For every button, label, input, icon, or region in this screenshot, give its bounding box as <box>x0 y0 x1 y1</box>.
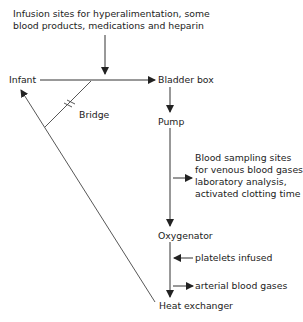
sampling-note: Blood sampling sites for venous blood ga… <box>195 152 303 200</box>
infusion-note-line-2: blood products, medications and heparin <box>13 20 210 32</box>
arterial-label: arterial blood gases <box>195 280 287 292</box>
infusion-note: Infusion sites for hyperalimentation, so… <box>13 8 210 32</box>
node-heat-exchanger: Heat exchanger <box>159 300 233 312</box>
platelets-label: platelets infused <box>195 252 272 264</box>
sampling-note-line-2: for venous blood gases, <box>195 164 303 176</box>
node-bridge: Bridge <box>79 109 109 121</box>
node-infant: Infant <box>9 74 36 86</box>
infusion-note-line-1: Infusion sites for hyperalimentation, so… <box>13 8 210 20</box>
sampling-note-line-3: laboratory analysis, <box>195 176 303 188</box>
heat-to-infant-arrow <box>21 90 155 302</box>
node-bladder-box: Bladder box <box>158 74 214 86</box>
sampling-note-line-1: Blood sampling sites <box>195 152 303 164</box>
node-pump: Pump <box>158 116 184 128</box>
sampling-note-line-4: activated clotting time <box>195 188 303 200</box>
node-oxygenator: Oxygenator <box>158 230 213 242</box>
